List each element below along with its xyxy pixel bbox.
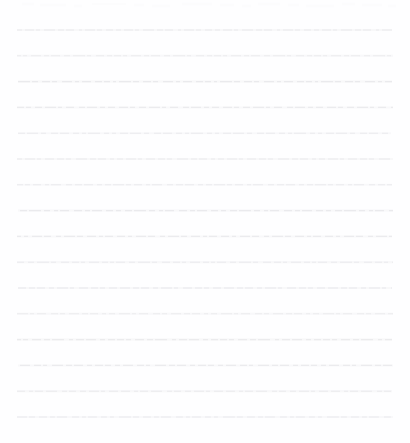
page-background [0,0,410,443]
scanned-page: Blank ruled notebook paper (faded scan) … [0,0,410,443]
ruled-paper-surface [0,0,410,443]
